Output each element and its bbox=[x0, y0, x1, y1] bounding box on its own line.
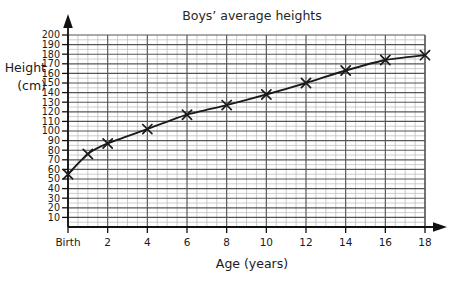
x-tick-label: Birth bbox=[55, 236, 80, 248]
y-tick-label: 90 bbox=[48, 135, 60, 146]
y-tick-label: 120 bbox=[42, 106, 60, 117]
y-tick-label: 110 bbox=[42, 116, 60, 127]
chart-figure: 1020304050607080901001101201301401501601… bbox=[0, 0, 459, 283]
x-tick-label: 10 bbox=[260, 236, 273, 248]
x-tick-label: 16 bbox=[379, 236, 393, 248]
x-tick-label: 2 bbox=[104, 236, 111, 248]
x-tick-label: 8 bbox=[223, 236, 230, 248]
y-axis-label-line2: (cm) bbox=[17, 78, 46, 93]
y-tick-label: 40 bbox=[48, 183, 60, 194]
x-tick-label: 18 bbox=[418, 236, 431, 248]
y-tick-label: 10 bbox=[48, 212, 60, 223]
y-tick-label: 30 bbox=[48, 193, 60, 204]
boys-average-heights-chart: 1020304050607080901001101201301401501601… bbox=[0, 0, 459, 283]
x-axis-label: Age (years) bbox=[216, 256, 288, 271]
y-tick-label: 190 bbox=[42, 39, 60, 50]
y-tick-label: 60 bbox=[48, 164, 60, 175]
chart-title: Boys’ average heights bbox=[182, 8, 322, 23]
y-tick-label: 130 bbox=[42, 97, 60, 108]
y-axis-label-line1: Height bbox=[5, 60, 46, 75]
y-tick-label: 200 bbox=[42, 29, 60, 40]
y-tick-label: 80 bbox=[48, 145, 60, 156]
y-tick-label: 180 bbox=[42, 49, 60, 60]
x-tick-label: 14 bbox=[339, 236, 353, 248]
y-tick-label: 50 bbox=[48, 173, 60, 184]
y-tick-label: 100 bbox=[42, 125, 60, 136]
x-tick-label: 4 bbox=[144, 236, 151, 248]
x-tick-label: 6 bbox=[184, 236, 191, 248]
y-tick-label: 70 bbox=[48, 154, 60, 165]
y-tick-label: 20 bbox=[48, 202, 60, 213]
x-tick-label: 12 bbox=[299, 236, 312, 248]
